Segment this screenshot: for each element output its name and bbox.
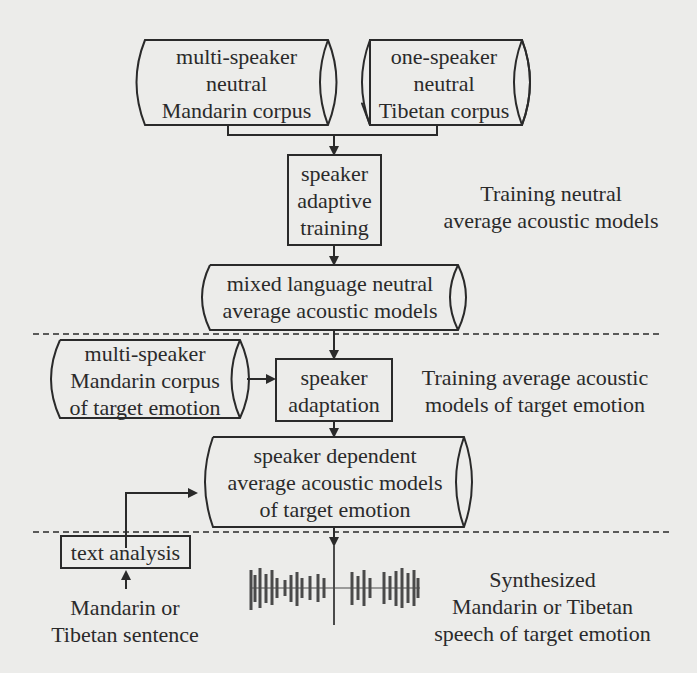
sd-models-label: speaker dependent average acoustic model…	[210, 442, 460, 523]
stage1-label: Training neutral average acoustic models	[420, 180, 682, 234]
text-analysis-label: text analysis	[61, 539, 190, 566]
sat-label: speaker adaptive training	[288, 160, 381, 241]
mandarin-corpus-label: multi-speaker neutral Mandarin corpus	[145, 43, 328, 124]
stage2-label: Training average acoustic models of targ…	[405, 364, 665, 418]
speech-waveform-icon	[250, 545, 420, 625]
tibetan-corpus-label: one-speaker neutral Tibetan corpus	[368, 43, 520, 124]
adaptation-label: speaker adaptation	[276, 364, 392, 418]
input-label: Mandarin or Tibetan sentence	[40, 594, 210, 648]
output-label: Synthesized Mandarin or Tibetan speech o…	[415, 566, 670, 647]
emotion-corpus-label: multi-speaker Mandarin corpus of target …	[55, 340, 235, 421]
mixed-models-label: mixed language neutral average acoustic …	[205, 270, 455, 324]
